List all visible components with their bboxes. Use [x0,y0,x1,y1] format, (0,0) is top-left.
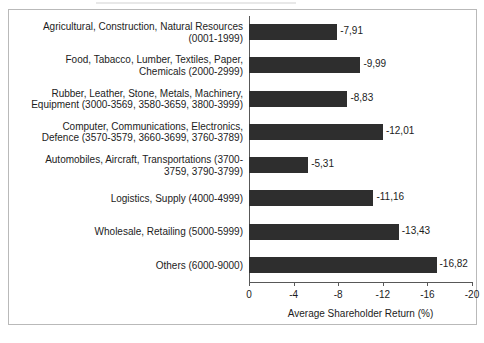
category-label-line: Wholesale, Retailing (5000-5999) [11,226,243,238]
category-label-line: Logistics, Supply (4000-4999) [11,193,243,205]
category-label: Rubber, Leather, Stone, Metals, Machiner… [11,83,243,116]
value-axis-line [249,282,472,283]
bar-row: -5,31 [249,149,472,182]
category-label-line: Equipment (3000-3569, 3580-3659, 3800-39… [11,99,243,111]
category-label-line: (0001-1999) [11,33,243,45]
bar-row: -8,83 [249,83,472,116]
scan-artifact [96,2,296,4]
x-axis-tick-label: -16 [412,289,442,301]
bar [249,190,373,206]
bar-value-label: -8,83 [350,90,373,106]
category-label: Automobiles, Aircraft, Transportations (… [11,149,243,182]
bar-row: -13,43 [249,216,472,249]
category-axis-labels: Agricultural, Construction, Natural Reso… [9,16,247,282]
plot-area: -7,91-9,99-8,83-12,01-5,31-11,16-13,43-1… [249,16,472,282]
bar-value-label: -11,16 [376,189,404,205]
category-label: Others (6000-9000) [11,249,243,282]
category-label: Food, Tabacco, Lumber, Textiles, Paper,C… [11,49,243,82]
bar-row: -9,99 [249,49,472,82]
bar [249,57,360,73]
x-axis-tick-label: -4 [279,289,309,301]
category-label-line: 3759, 3790-3799) [11,166,243,178]
category-label-line: Food, Tabacco, Lumber, Textiles, Paper, [11,54,243,66]
bar-row: -12,01 [249,116,472,149]
bar [249,157,308,173]
x-axis-tick [383,282,384,286]
bar [249,24,337,40]
category-label-line: Rubber, Leather, Stone, Metals, Machiner… [11,88,243,100]
bar-row: -11,16 [249,182,472,215]
shareholder-return-bar-chart: Agricultural, Construction, Natural Reso… [0,0,484,343]
x-axis-tick [249,282,250,286]
bar-value-label: -16,82 [440,256,468,272]
category-label-line: Computer, Communications, Electronics, [11,121,243,133]
x-axis-tick-label: 0 [234,289,264,301]
bar-row: -16,82 [249,249,472,282]
bar [249,91,347,107]
category-label: Wholesale, Retailing (5000-5999) [11,216,243,249]
bar-value-label: -13,43 [402,223,430,239]
bar [249,124,383,140]
category-label: Computer, Communications, Electronics,De… [11,116,243,149]
bar-value-label: -7,91 [340,23,363,39]
x-axis-tick [427,282,428,286]
category-label-line: Agricultural, Construction, Natural Reso… [11,21,243,33]
x-axis-tick [294,282,295,286]
category-label-line: Others (6000-9000) [11,260,243,272]
x-axis-title: Average Shareholder Return (%) [249,308,472,320]
x-axis-tick-label: -8 [323,289,353,301]
x-axis-tick [472,282,473,286]
x-axis-tick [338,282,339,286]
bar-row: -7,91 [249,16,472,49]
bar-value-label: -12,01 [386,123,414,139]
bar-value-label: -9,99 [363,56,386,72]
category-label-line: Automobiles, Aircraft, Transportations (… [11,154,243,166]
bar-value-label: -5,31 [311,156,334,172]
bar-series: -7,91-9,99-8,83-12,01-5,31-11,16-13,43-1… [249,16,472,282]
category-label-line: Chemicals (2000-2999) [11,66,243,78]
category-label: Logistics, Supply (4000-4999) [11,182,243,215]
x-axis-tick-label: -12 [368,289,398,301]
x-axis-tick-label: -20 [457,289,484,301]
bar [249,257,437,273]
chart-frame: Agricultural, Construction, Natural Reso… [8,9,477,325]
category-label-line: Defence (3570-3579, 3660-3699, 3760-3789… [11,132,243,144]
category-label: Agricultural, Construction, Natural Reso… [11,16,243,49]
bar [249,224,399,240]
